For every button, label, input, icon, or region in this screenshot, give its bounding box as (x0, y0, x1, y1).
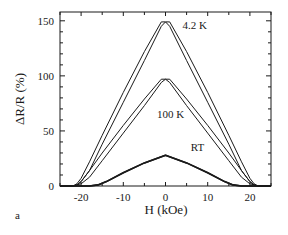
curve-branch (60, 79, 271, 186)
plot-border (60, 12, 271, 186)
x-tick-label: 20 (244, 191, 256, 203)
magnetoresistance-chart: -20-1001020 050100150 4.2 K100 KRT H (kO… (0, 0, 288, 235)
curve-label-rt: RT (191, 141, 205, 153)
x-tick-label: -10 (116, 191, 131, 203)
curve-branch (60, 79, 271, 186)
series-100-k (60, 79, 271, 186)
y-tick-label: 0 (49, 180, 55, 192)
y-tick-label: 100 (38, 70, 55, 82)
series-4-2-k (60, 22, 271, 186)
curve-label-100-k: 100 K (157, 108, 184, 120)
x-axis-title: H (kOe) (145, 202, 188, 217)
y-tick-label: 50 (43, 125, 55, 137)
curve-label-4-2-k: 4.2 K (182, 19, 207, 31)
x-tick-label: -20 (74, 191, 89, 203)
curve-branch (60, 22, 271, 186)
panel-label: a (15, 209, 20, 221)
series-rt (60, 155, 271, 186)
curve-branch (60, 155, 271, 186)
curve-branch (60, 155, 271, 186)
curve-branch (60, 22, 271, 186)
data-curves (60, 22, 271, 186)
y-axis-title: ΔR/R (%) (12, 73, 27, 125)
plot-frame (60, 12, 271, 186)
x-tick-label: 10 (202, 191, 214, 203)
y-tick-label: 150 (38, 15, 55, 27)
